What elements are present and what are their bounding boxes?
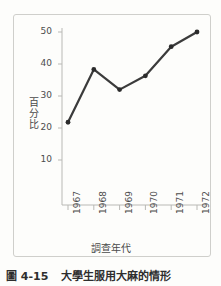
data-point-marker	[195, 30, 200, 35]
x-tick-label: 1970	[149, 191, 159, 214]
y-tick-label: 40	[30, 58, 52, 68]
x-tick-label: 1972	[201, 191, 211, 214]
data-line	[68, 32, 197, 122]
y-tick-label: 20	[30, 122, 52, 132]
figure-caption-number: 圖 4-15	[6, 270, 48, 283]
data-point-marker	[143, 73, 148, 78]
figure-caption-title: 大學生服用大麻的情形	[61, 270, 171, 283]
y-tick-label: 10	[30, 154, 52, 164]
x-tick-label: 1969	[124, 191, 134, 214]
data-point-marker	[169, 44, 174, 49]
data-point-marker	[66, 120, 71, 125]
x-axis-title: 調查年代	[0, 240, 221, 255]
figure-root: 百分比 1020304050 196719681969197019711972 …	[0, 0, 221, 286]
figure-caption: 圖 4-15大學生服用大麻的情形	[6, 267, 218, 283]
y-tick-label: 50	[30, 26, 52, 36]
y-axis-title-char: 分	[26, 108, 41, 119]
x-tick-label: 1971	[175, 191, 185, 214]
x-tick-label: 1968	[98, 191, 108, 214]
data-point-marker	[117, 87, 122, 92]
x-tick-label: 1967	[72, 191, 82, 214]
y-axis-ticks	[58, 32, 62, 160]
y-tick-label: 30	[30, 90, 52, 100]
data-markers	[66, 30, 200, 125]
data-point-marker	[91, 67, 96, 72]
